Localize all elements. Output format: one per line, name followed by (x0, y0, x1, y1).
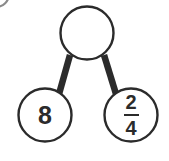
number-bond-diagram: 8 2 4 (0, 0, 169, 161)
cropped-circle-arc-icon (0, 0, 9, 7)
connector-parent-to-right-child (104, 55, 116, 94)
right-child-node-circle[interactable] (105, 89, 158, 142)
connector-parent-to-left-child (59, 55, 70, 94)
parent-node-circle[interactable] (61, 7, 114, 60)
left-child-node-circle[interactable] (19, 89, 72, 142)
number-bond-canvas (0, 0, 169, 161)
